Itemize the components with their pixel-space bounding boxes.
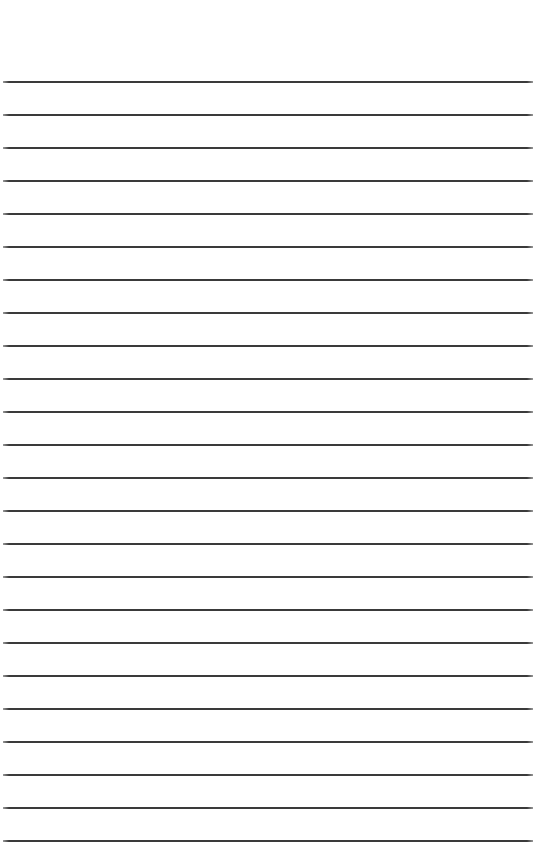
ruled-line xyxy=(3,609,533,611)
ruled-line xyxy=(3,675,533,677)
ruled-line xyxy=(3,180,533,182)
ruled-line xyxy=(3,114,533,116)
ruled-line xyxy=(3,807,533,809)
ruled-line xyxy=(3,279,533,281)
ruled-line xyxy=(3,576,533,578)
ruled-line xyxy=(3,81,533,83)
ruled-line xyxy=(3,477,533,479)
ruled-line xyxy=(3,543,533,545)
ruled-line xyxy=(3,774,533,776)
ruled-line xyxy=(3,345,533,347)
ruled-line xyxy=(3,642,533,644)
ruled-line xyxy=(3,246,533,248)
ruled-line xyxy=(3,411,533,413)
ruled-line xyxy=(3,312,533,314)
ruled-line xyxy=(3,840,533,842)
lined-paper-page xyxy=(0,0,535,864)
ruled-line xyxy=(3,741,533,743)
ruled-line xyxy=(3,147,533,149)
ruled-line xyxy=(3,378,533,380)
ruled-line xyxy=(3,213,533,215)
ruled-line xyxy=(3,444,533,446)
ruled-line xyxy=(3,510,533,512)
ruled-line xyxy=(3,708,533,710)
